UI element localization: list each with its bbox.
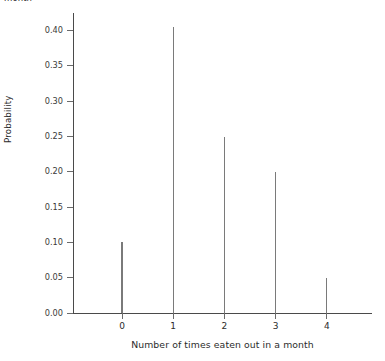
y-axis-tick-label: 0.05: [23, 273, 63, 281]
y-axis-tick-label: 0.25: [23, 132, 63, 140]
x-axis-tick: [326, 313, 327, 319]
data-spike: [173, 27, 174, 313]
y-axis-tick-label: 0.10: [23, 238, 63, 246]
y-axis-tick: [67, 277, 73, 278]
x-axis-title: Number of times eaten out in a month: [73, 339, 372, 350]
y-axis-tick-label: 0.30: [23, 97, 63, 105]
x-axis-tick-label: 1: [158, 322, 188, 331]
x-axis-tick-label: 0: [107, 322, 137, 331]
x-axis-tick-label: 4: [312, 322, 342, 331]
data-spike: [326, 278, 327, 313]
y-axis-tick-label: 0.35: [23, 61, 63, 69]
y-axis-tick: [67, 30, 73, 31]
x-axis-tick: [173, 313, 174, 319]
y-axis-tick-label: 0.40: [23, 26, 63, 34]
y-axis-tick: [67, 242, 73, 243]
y-axis-tick: [67, 171, 73, 172]
y-axis-title: Probability: [3, 95, 13, 143]
y-axis-tick-label: 0.15: [23, 203, 63, 211]
x-axis-tick-label: 3: [261, 322, 291, 331]
y-axis-tick: [67, 65, 73, 66]
y-axis-tick: [67, 101, 73, 102]
x-axis-tick-label: 2: [209, 322, 239, 331]
y-axis-tick-label: 0.00: [23, 309, 63, 317]
x-axis-tick: [224, 313, 225, 319]
data-spike: [224, 137, 225, 313]
y-axis-line: [73, 13, 74, 314]
y-axis-tick-label: 0.20: [23, 167, 63, 175]
y-axis-tick: [67, 207, 73, 208]
probability-spike-chart: month 0.000.050.100.150.200.250.300.350.…: [0, 0, 385, 361]
y-axis-tick: [67, 136, 73, 137]
x-axis-tick: [275, 313, 276, 319]
y-axis-tick: [67, 313, 73, 314]
x-axis-tick: [122, 313, 123, 319]
top-clipped-caption: month: [4, 0, 32, 3]
data-spike: [275, 172, 276, 313]
data-spike: [121, 242, 122, 313]
